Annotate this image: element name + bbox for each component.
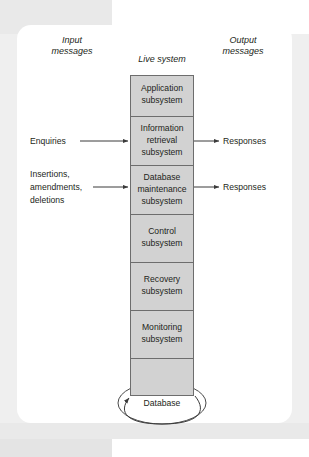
subsystem-control-line2: subsystem [141, 238, 182, 248]
subsystem-monitoring-line2: subsystem [141, 334, 182, 344]
input-flow-insertions-line1: Insertions, [30, 169, 70, 179]
column-header-input: Input messages [51, 35, 93, 56]
input-header-line2: messages [51, 46, 93, 56]
subsystem-application-line1: Application [141, 83, 183, 93]
subsystem-database-maintenance[interactable]: Database maintenance subsystem [131, 166, 194, 215]
subsystem-unlabelled[interactable] [131, 359, 194, 396]
subsystem-monitoring[interactable]: Monitoring subsystem [131, 311, 194, 359]
subsystem-monitoring-line1: Monitoring [142, 322, 182, 332]
subsystem-control[interactable]: Control subsystem [131, 215, 194, 263]
output-flow-responses-retrieval-label: Responses [223, 136, 266, 146]
subsystem-information-retrieval-line2: retrieval [147, 135, 178, 145]
output-flow-responses-retrieval: Responses [194, 136, 266, 146]
column-header-output: Output messages [222, 35, 264, 56]
output-flow-responses-maintenance: Responses [194, 182, 266, 192]
subsystem-control-line1: Control [148, 226, 176, 236]
subsystem-recovery-line2: subsystem [141, 286, 182, 296]
input-flow-insertions-line3: deletions [30, 195, 64, 205]
subsystem-information-retrieval-line1: Information [141, 123, 184, 133]
subsystem-recovery-line1: Recovery [144, 274, 181, 284]
output-flow-responses-maintenance-label: Responses [223, 182, 266, 192]
subsystem-stack: Application subsystem Information retrie… [131, 76, 194, 396]
output-header-line1: Output [229, 35, 257, 45]
input-flow-insertions-amendments-deletions: Insertions, amendments, deletions [30, 169, 128, 205]
subsystem-database-maintenance-line1: Database [144, 172, 181, 182]
input-flow-enquiries: Enquiries [30, 136, 128, 146]
subsystem-database-maintenance-line2: maintenance [137, 184, 186, 194]
output-header-line2: messages [222, 46, 264, 56]
database-label: Database [144, 398, 181, 408]
input-header-line1: Input [62, 35, 83, 45]
subsystem-application[interactable]: Application subsystem [131, 76, 194, 117]
subsystem-application-line2: subsystem [141, 95, 182, 105]
input-flow-enquiries-label: Enquiries [30, 136, 66, 146]
column-header-live-system: Live system [138, 54, 186, 64]
input-flow-insertions-line2: amendments, [30, 182, 82, 192]
subsystem-database-maintenance-line3: subsystem [141, 196, 182, 206]
subsystem-information-retrieval[interactable]: Information retrieval subsystem [131, 117, 194, 166]
subsystem-recovery[interactable]: Recovery subsystem [131, 263, 194, 311]
subsystem-information-retrieval-line3: subsystem [141, 147, 182, 157]
block-diagram: Input messages Live system Output messag… [0, 0, 309, 457]
